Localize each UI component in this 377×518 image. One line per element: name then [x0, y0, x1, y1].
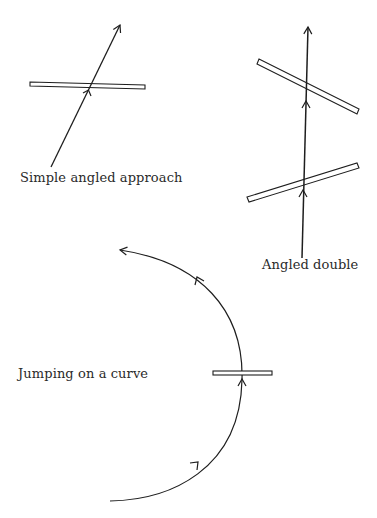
angled-double-diagram [247, 27, 359, 258]
label-simple-angled-approach: Simple angled approach [20, 170, 183, 185]
mid-arrowhead-icon [190, 462, 198, 470]
simple-angled-approach-diagram [30, 25, 145, 167]
upper-plate [257, 59, 359, 114]
label-jumping-on-a-curve: Jumping on a curve [18, 366, 148, 381]
plate [30, 82, 145, 89]
label-angled-double: Angled double [262, 257, 358, 272]
plate [213, 371, 272, 375]
trajectory-line [51, 25, 120, 167]
trajectory-line [302, 27, 308, 258]
